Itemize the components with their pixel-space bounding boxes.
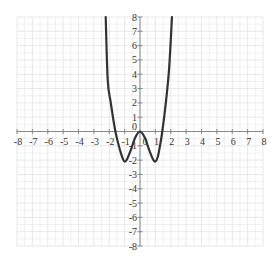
x-tick-label: 5 [215,136,220,147]
x-tick-label: -7 [29,136,37,147]
x-tick-label: 8 [262,136,267,147]
y-tick-label: 2 [132,97,137,108]
x-tick-label: -8 [14,136,22,147]
y-tick-label: 3 [132,83,137,94]
y-tick-label: -3 [129,169,137,180]
x-tick-label: 6 [231,136,236,147]
function-graph: -8-7-6-5-4-3-2-1012345678 87654321-1-2-3… [0,0,274,265]
y-tick-label: -5 [129,198,137,209]
y-tick-label: 4 [132,69,137,80]
y-tick-label: -2 [129,155,137,166]
x-tick-label: 4 [200,136,205,147]
x-tick-label: -3 [91,136,99,147]
x-tick-label: -4 [75,136,83,147]
y-tick-label: 7 [132,26,137,37]
y-tick-label: 6 [132,40,137,51]
x-tick-label: 2 [169,136,174,147]
x-tick-label: -5 [60,136,68,147]
x-tick-label: -6 [45,136,53,147]
x-tick-label: 7 [246,136,251,147]
y-tick-label: 0 [132,121,137,132]
y-tick-label: -6 [129,212,137,223]
y-tick-label: -8 [129,241,137,252]
y-tick-label: -4 [129,183,137,194]
x-tick-label: 1 [154,136,159,147]
x-tick-label: 3 [185,136,190,147]
x-tick-label: -2 [106,136,114,147]
y-tick-label: 8 [132,12,137,23]
y-tick-label: -7 [129,226,137,237]
y-tick-label: 5 [132,54,137,65]
